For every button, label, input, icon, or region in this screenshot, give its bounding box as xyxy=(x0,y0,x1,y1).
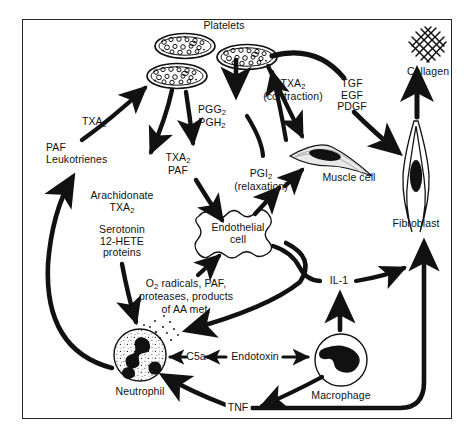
pgh2-label: PGH2 xyxy=(198,117,225,130)
relaxation-note-label: (relaxation) xyxy=(234,181,288,193)
contraction-note-label: (contraction) xyxy=(263,91,323,103)
edge-il1-to-fibroblast xyxy=(356,268,404,281)
serotonin-block-label: Serotonin 12-HETE proteins xyxy=(99,224,145,259)
txa2-left-label: TXA2 xyxy=(82,116,107,129)
arachidonate-txa2-label: TXA2 xyxy=(109,202,134,215)
edge-platelet-to-txa2paf xyxy=(186,92,193,143)
edge-pgg2-to-pgi2 xyxy=(247,116,263,156)
txa2-paf-txa2-label: TXA2 xyxy=(165,152,190,165)
collagen-mesh-icon xyxy=(409,27,446,62)
edge-platelet-to-growthfactors xyxy=(272,53,344,78)
edge-serotonin-to-neutrophil xyxy=(122,264,136,322)
edge-o2radicals-to-endothelial xyxy=(198,256,219,275)
paf-leukotrienes-label: PAF Leukotrienes xyxy=(46,142,107,165)
platelets-label: Platelets xyxy=(203,20,244,32)
txa2-contraction-label: TXA2 xyxy=(280,78,305,91)
arachidonate-label: Arachidonate xyxy=(90,190,153,202)
growth-factors-label: TGF EGF PDGF xyxy=(337,78,367,113)
figure-canvas: Platelets Collagen TXA2 PAF Leukotrienes… xyxy=(0,0,476,442)
edge-growthfactors-to-fibroblast xyxy=(354,112,398,152)
o2-radicals-line3: of AA met. xyxy=(162,304,211,316)
pgi2-label: PGI2 xyxy=(250,168,273,181)
txa2-paf-paf-label: PAF xyxy=(168,165,188,177)
pgg2-label: PGG2 xyxy=(198,104,226,117)
platelet-cell-3 xyxy=(147,64,207,89)
o2-radicals-line2: proteases, products xyxy=(139,291,233,303)
fibroblast-shape xyxy=(403,121,429,232)
o2-radicals-line1: O2 radicals, PAF, xyxy=(146,278,226,291)
fibroblast-label: Fibroblast xyxy=(392,218,439,230)
endothelial-cell-label: Endothelial cell xyxy=(211,222,264,245)
edge-neutrophil-to-paf xyxy=(48,178,112,368)
collagen-label: Collagen xyxy=(407,66,449,78)
neutrophil-label: Neutrophil xyxy=(116,386,165,398)
platelet-cell-1 xyxy=(155,34,215,59)
muscle-cell-label: Muscle cell xyxy=(322,172,375,184)
endotoxin-label: Endotoxin xyxy=(231,351,279,363)
c5a-label: C5a xyxy=(186,351,206,363)
edge-platelet-to-arachidonate xyxy=(151,90,172,152)
edge-txa2-to-platelet xyxy=(82,88,145,140)
edge-tnf-to-neutrophil xyxy=(164,376,226,405)
neutrophil-shape xyxy=(114,329,166,381)
il1-label: IL-1 xyxy=(328,275,351,287)
macrophage-label: Macrophage xyxy=(311,390,370,402)
tnf-label: TNF xyxy=(226,402,251,414)
